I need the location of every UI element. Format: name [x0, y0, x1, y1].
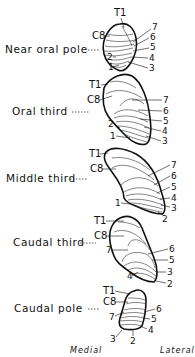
label-7: 7	[171, 160, 177, 170]
label-4: 4	[162, 126, 168, 136]
section-caudal-third: Caudal third T1 C8 7 4 6 5 3 2	[13, 215, 175, 289]
leader-line	[144, 127, 161, 131]
label-t1: T1	[113, 7, 126, 18]
label-3: 3	[110, 334, 116, 344]
section-caudal-pole: Caudal pole T1 C8 7 3 6 5 4 2	[14, 285, 162, 346]
label-1: 1	[110, 131, 116, 141]
leader-line	[100, 96, 112, 100]
leader-line	[157, 187, 170, 193]
label-4: 4	[171, 193, 177, 203]
section-label: Caudal third	[13, 236, 84, 248]
orientation-lateral: Lateral	[160, 346, 195, 355]
segment-band	[104, 48, 133, 51]
section-label: Oral third	[12, 105, 68, 117]
label-3: 3	[162, 136, 168, 146]
label-2: 2	[167, 279, 173, 289]
label-7: 7	[163, 95, 169, 105]
diagram-canvas: Near oral pole T1 C8 2 1 7 6 5 4 3 Oral …	[0, 0, 195, 357]
label-t1: T1	[102, 285, 115, 296]
section-label: Near oral pole	[5, 43, 88, 55]
label-6: 6	[169, 244, 175, 254]
segment-band	[124, 188, 160, 194]
leader-line	[160, 198, 170, 199]
label-6: 6	[163, 106, 169, 116]
label-2: 2	[108, 119, 114, 129]
segment-band	[106, 40, 135, 42]
leader-line	[115, 291, 130, 294]
segment-band	[120, 178, 158, 186]
label-c8: C8	[90, 163, 103, 174]
section-outline	[104, 148, 165, 214]
label-4: 4	[149, 53, 155, 63]
label-c8: C8	[94, 230, 107, 241]
section-outline	[119, 290, 146, 330]
leader-line	[128, 62, 148, 68]
label-t1: T1	[88, 79, 101, 90]
label-7: 7	[109, 312, 115, 322]
segment-band	[106, 91, 142, 98]
label-6: 6	[156, 304, 162, 314]
leader-line	[116, 330, 122, 337]
label-3: 3	[167, 267, 173, 277]
segment-band	[105, 44, 134, 47]
label-3: 3	[171, 203, 177, 213]
label-2: 2	[162, 214, 168, 224]
label-1: 1	[115, 198, 121, 208]
segment-band	[121, 324, 142, 326]
section-middle-third: Middle third T1 C8 1 7 6 5 4 3 2	[6, 148, 177, 224]
label-5: 5	[151, 314, 157, 324]
segment-band	[121, 317, 144, 319]
label-6: 6	[171, 171, 177, 181]
label-1: 1	[108, 62, 114, 72]
segment-band	[108, 34, 133, 36]
section-outline	[110, 216, 157, 282]
label-7: 7	[106, 245, 112, 255]
label-5: 5	[163, 116, 169, 126]
segment-band	[126, 194, 162, 200]
segment-band	[128, 298, 145, 300]
label-7: 7	[152, 22, 158, 32]
label-c8: C8	[92, 30, 105, 41]
segment-band	[126, 303, 146, 305]
segment-band	[122, 26, 132, 46]
label-c8: C8	[103, 296, 116, 307]
section-oral-third: Oral third T1 C8 2 1 7 6 5 4 3	[12, 75, 169, 147]
leader-line	[148, 165, 170, 176]
label-5: 5	[169, 255, 175, 265]
segment-band	[110, 81, 136, 88]
segment-band	[114, 110, 148, 116]
orientation-medial: Medial	[70, 346, 102, 355]
segment-band	[112, 165, 154, 180]
leader-line	[138, 110, 162, 111]
label-t1: T1	[88, 148, 101, 159]
label-2: 2	[107, 52, 113, 62]
segment-band	[114, 116, 148, 122]
leader-line	[156, 281, 166, 283]
label-4: 4	[148, 325, 154, 335]
segment-band	[120, 320, 143, 322]
label-5: 5	[171, 182, 177, 192]
segment-band	[122, 313, 145, 315]
label-t1: T1	[93, 215, 106, 226]
section-label: Middle third	[6, 172, 76, 184]
segment-band	[122, 252, 155, 268]
section-label: Caudal pole	[14, 302, 83, 314]
label-5: 5	[150, 42, 156, 52]
label-2: 2	[130, 336, 136, 346]
section-near-oral-pole: Near oral pole T1 C8 2 1 7 6 5 4 3	[5, 7, 158, 73]
label-3: 3	[149, 63, 155, 73]
segment-band	[124, 309, 146, 311]
label-6: 6	[150, 32, 156, 42]
label-c8: C8	[87, 94, 100, 105]
segment-band	[118, 222, 140, 228]
